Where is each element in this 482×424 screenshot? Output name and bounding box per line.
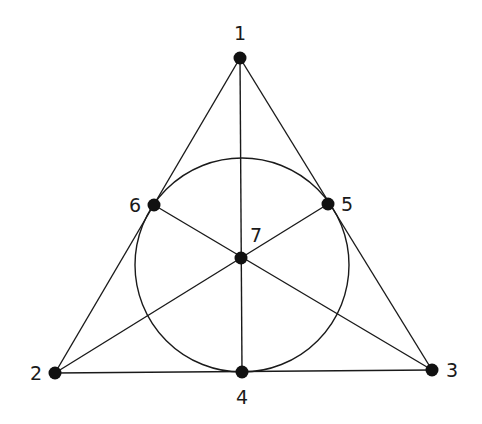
- points-group: [49, 52, 439, 380]
- point-label-4: 4: [236, 386, 248, 408]
- line-3-6: [154, 205, 432, 370]
- point-1: [234, 52, 247, 65]
- point-label-7: 7: [250, 224, 262, 246]
- point-5: [322, 198, 335, 211]
- fano-plane-diagram: 1234567: [0, 0, 482, 424]
- point-label-1: 1: [234, 22, 246, 44]
- point-4: [236, 366, 249, 379]
- point-6: [148, 199, 161, 212]
- line-1-4: [240, 58, 242, 372]
- point-label-5: 5: [341, 193, 353, 215]
- lines-group: [55, 58, 432, 373]
- point-label-3: 3: [446, 359, 458, 381]
- point-3: [426, 364, 439, 377]
- labels-group: 1234567: [30, 22, 458, 408]
- line-2-5: [55, 204, 328, 373]
- point-7: [235, 252, 248, 265]
- point-2: [49, 367, 62, 380]
- point-label-2: 2: [30, 362, 42, 384]
- point-label-6: 6: [129, 194, 141, 216]
